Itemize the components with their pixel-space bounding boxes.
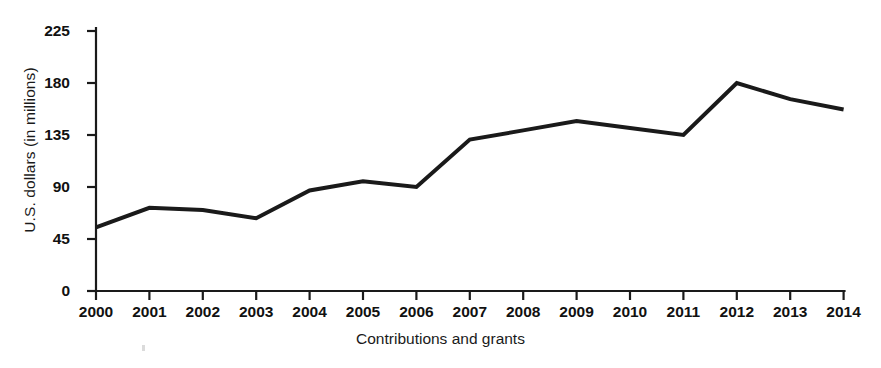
line-chart: U.S. dollars (in millions) 0459013518022… bbox=[0, 0, 881, 368]
scan-speck bbox=[142, 345, 145, 351]
data-line-contributions-and-grants bbox=[96, 83, 844, 227]
x-tick-label: 2001 bbox=[132, 304, 166, 320]
x-axis-label: Contributions and grants bbox=[0, 330, 881, 348]
x-tick-label: 2011 bbox=[667, 304, 701, 320]
x-tick-label: 2002 bbox=[186, 304, 220, 320]
x-tick-label: 2012 bbox=[720, 304, 754, 320]
x-tick-label: 2003 bbox=[239, 304, 273, 320]
x-tick-label: 2005 bbox=[346, 304, 380, 320]
x-tick-label: 2006 bbox=[399, 304, 433, 320]
x-tick-label: 2007 bbox=[453, 304, 487, 320]
x-tick-label: 2009 bbox=[559, 304, 593, 320]
x-tick-label: 2004 bbox=[292, 304, 326, 320]
x-tick-label: 2000 bbox=[79, 304, 113, 320]
x-tick-label: 2014 bbox=[826, 304, 860, 320]
x-tick-label: 2013 bbox=[773, 304, 807, 320]
x-tick-label: 2008 bbox=[506, 304, 540, 320]
x-tick-label: 2010 bbox=[613, 304, 647, 320]
